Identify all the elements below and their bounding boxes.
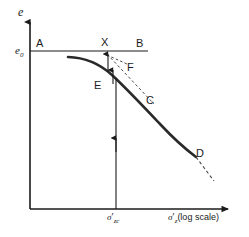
point-label-E: E bbox=[94, 80, 101, 91]
e0-subscript: 0 bbox=[20, 51, 24, 59]
x-tick-sigma-zc: σ′zc bbox=[107, 212, 119, 222]
point-label-F: F bbox=[127, 62, 134, 73]
figure-vector-canvas bbox=[0, 0, 249, 237]
x-axis-label: σ′z(log scale) bbox=[168, 212, 219, 222]
z-subscript-axis: z bbox=[175, 217, 178, 225]
point-label-B: B bbox=[136, 38, 143, 49]
virgin-line-extension-dashed bbox=[196, 157, 214, 181]
y-axis-origin-label: e0 bbox=[15, 45, 23, 56]
zc-subscript: zc bbox=[114, 217, 120, 225]
bisector-dashed bbox=[107, 55, 127, 64]
y-axis-label: e bbox=[18, 6, 23, 18]
point-label-D: D bbox=[196, 148, 204, 159]
consolidation-curve-figure: e e0 σ′zc σ′z(log scale) A B X E F C D bbox=[0, 0, 249, 237]
log-scale-note: (log scale) bbox=[177, 212, 219, 222]
point-label-X: X bbox=[101, 37, 108, 48]
point-label-C: C bbox=[146, 95, 154, 106]
point-label-A: A bbox=[36, 38, 43, 49]
